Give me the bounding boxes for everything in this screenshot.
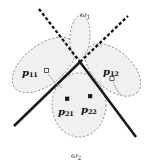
class-label-omega2-sub: 2 bbox=[78, 154, 82, 161]
point-label-p21-base: p bbox=[58, 106, 65, 117]
decision-region-figure: p11 p12 p21 p22 ω1 ω2 bbox=[0, 0, 155, 160]
point-label-p12: p12 bbox=[103, 62, 119, 78]
point-label-p11: p11 bbox=[22, 63, 38, 79]
marker-p21 bbox=[66, 97, 69, 100]
class-label-omega1-sub: 1 bbox=[87, 13, 91, 20]
point-label-p12-base: p bbox=[103, 66, 110, 77]
point-label-p22-sub: 22 bbox=[88, 108, 97, 116]
point-label-p12-sub: 12 bbox=[110, 70, 119, 78]
class-label-omega2: ω2 bbox=[71, 145, 81, 160]
figure-canvas bbox=[0, 0, 155, 160]
point-label-p22-base: p bbox=[81, 104, 88, 115]
point-label-p11-sub: 11 bbox=[29, 71, 38, 79]
point-label-p21-sub: 21 bbox=[65, 110, 74, 118]
marker-p11 bbox=[45, 69, 49, 73]
point-label-p22: p22 bbox=[81, 100, 97, 116]
class-label-omega1: ω1 bbox=[80, 4, 90, 20]
marker-p22 bbox=[89, 95, 92, 98]
point-label-p21: p21 bbox=[58, 102, 74, 118]
point-label-p11-base: p bbox=[22, 67, 29, 78]
